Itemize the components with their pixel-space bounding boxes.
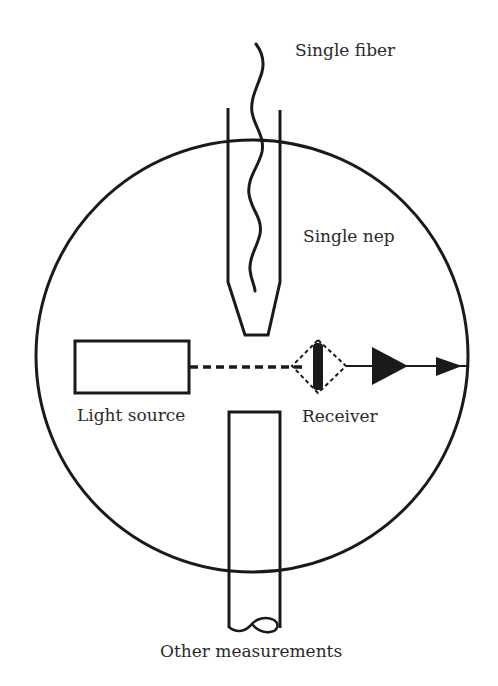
single-fiber-line [249, 44, 263, 291]
label-other-measurements: Other measurements [160, 641, 342, 661]
lower-tube-break [229, 618, 277, 632]
light-source-box [75, 341, 189, 393]
label-receiver: Receiver [302, 406, 378, 426]
measurement-chamber-diagram [0, 0, 498, 686]
label-single-nep: Single nep [303, 226, 395, 246]
label-light-source: Light source [77, 405, 185, 425]
label-single-fiber: Single fiber [295, 40, 395, 60]
receiver-lens [313, 343, 323, 390]
amplifier-triangle-large [372, 347, 408, 385]
output-arrow-small [436, 357, 462, 376]
lower-tube [229, 412, 280, 628]
